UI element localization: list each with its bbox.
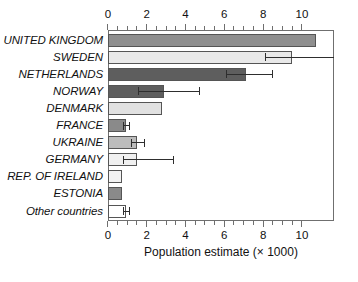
x-tick-label-bot-10: 10 xyxy=(289,229,315,241)
major-tick-bot xyxy=(224,221,225,227)
error-bar xyxy=(265,57,334,58)
bar-row: Other countries xyxy=(0,203,358,220)
error-bar-cap-low xyxy=(131,139,132,147)
minor-tick-bot xyxy=(117,221,118,225)
bar xyxy=(108,187,122,200)
bar-row: NETHERLANDS xyxy=(0,66,358,83)
minor-tick-top xyxy=(175,26,176,30)
x-tick-label-bot-8: 8 xyxy=(250,229,276,241)
major-tick-bot xyxy=(301,221,302,227)
error-bar xyxy=(124,159,174,160)
minor-tick-bot xyxy=(204,221,205,225)
minor-tick-bot xyxy=(127,221,128,225)
error-bar xyxy=(226,74,273,75)
error-bar-cap-high xyxy=(129,122,130,130)
major-tick-top xyxy=(146,24,147,30)
bar-row: GERMANY xyxy=(0,151,358,168)
minor-tick-top xyxy=(166,26,167,30)
error-bar-cap-high xyxy=(144,139,145,147)
minor-tick-top xyxy=(117,26,118,30)
bar xyxy=(108,34,316,47)
minor-tick-top xyxy=(195,26,196,30)
error-bar-cap-low xyxy=(226,70,227,78)
bar-row: UNITED KINGDOM xyxy=(0,32,358,49)
minor-tick-top xyxy=(156,26,157,30)
minor-tick-top xyxy=(136,26,137,30)
x-tick-label-top-2: 2 xyxy=(134,8,160,20)
bar xyxy=(108,102,162,115)
error-bar-cap-high xyxy=(129,207,130,215)
x-tick-label-bot-4: 4 xyxy=(173,229,199,241)
x-tick-label-bot-0: 0 xyxy=(95,229,121,241)
minor-tick-top xyxy=(204,26,205,30)
bar-row: FRANCE xyxy=(0,117,358,134)
bar xyxy=(108,170,122,183)
x-tick-label-top-10: 10 xyxy=(289,8,315,20)
minor-tick-bot xyxy=(272,221,273,225)
category-label: DENMARK xyxy=(0,100,103,117)
minor-tick-top xyxy=(214,26,215,30)
bar-row: NORWAY xyxy=(0,83,358,100)
bar-row: SWEDEN xyxy=(0,49,358,66)
minor-tick-top xyxy=(253,26,254,30)
minor-tick-top xyxy=(243,26,244,30)
error-bar-cap-low xyxy=(123,207,124,215)
error-bar-cap-high xyxy=(199,87,200,95)
major-tick-top xyxy=(263,24,264,30)
x-tick-label-top-0: 0 xyxy=(95,8,121,20)
major-tick-top xyxy=(224,24,225,30)
category-label: NETHERLANDS xyxy=(0,66,103,83)
minor-tick-bot xyxy=(175,221,176,225)
minor-tick-bot xyxy=(292,221,293,225)
minor-tick-top xyxy=(282,26,283,30)
minor-tick-bot xyxy=(156,221,157,225)
x-tick-label-bot-2: 2 xyxy=(134,229,160,241)
category-label: NORWAY xyxy=(0,83,103,100)
bottom-axis-line xyxy=(108,220,334,221)
major-tick-bot xyxy=(185,221,186,227)
minor-tick-bot xyxy=(233,221,234,225)
minor-tick-top xyxy=(272,26,273,30)
category-label: REP. OF IRELAND xyxy=(0,168,103,185)
error-bar-cap-high xyxy=(173,156,174,164)
category-label: ESTONIA xyxy=(0,185,103,202)
major-tick-bot xyxy=(146,221,147,227)
major-tick-bot xyxy=(107,221,108,227)
major-tick-bot xyxy=(263,221,264,227)
bar-row: DENMARK xyxy=(0,100,358,117)
minor-tick-top xyxy=(292,26,293,30)
minor-tick-top xyxy=(233,26,234,30)
error-bar-cap-low xyxy=(123,122,124,130)
minor-tick-bot xyxy=(195,221,196,225)
minor-tick-bot xyxy=(243,221,244,225)
x-tick-label-top-4: 4 xyxy=(173,8,199,20)
category-label: SWEDEN xyxy=(0,49,103,66)
bar-row: REP. OF IRELAND xyxy=(0,168,358,185)
minor-tick-bot xyxy=(166,221,167,225)
bar-row: UKRAINE xyxy=(0,134,358,151)
minor-tick-bot xyxy=(214,221,215,225)
minor-tick-bot xyxy=(282,221,283,225)
error-bar-cap-high xyxy=(272,70,273,78)
major-tick-top xyxy=(301,24,302,30)
bar-row: ESTONIA xyxy=(0,185,358,202)
category-label: UNITED KINGDOM xyxy=(0,32,103,49)
x-axis-title: Population estimate (× 1000) xyxy=(108,245,334,259)
error-bar xyxy=(131,142,145,143)
category-label: UKRAINE xyxy=(0,134,103,151)
error-bar xyxy=(139,91,199,92)
major-tick-top xyxy=(185,24,186,30)
x-tick-label-top-6: 6 xyxy=(211,8,237,20)
minor-tick-bot xyxy=(136,221,137,225)
horizontal-bar-chart: 00224466881010 UNITED KINGDOMSWEDENNETHE… xyxy=(0,0,358,282)
error-bar-cap-low xyxy=(265,53,266,61)
error-bar-cap-low xyxy=(138,87,139,95)
minor-tick-bot xyxy=(253,221,254,225)
error-bar-cap-low xyxy=(123,156,124,164)
x-tick-label-bot-6: 6 xyxy=(211,229,237,241)
major-tick-top xyxy=(107,24,108,30)
x-tick-label-top-8: 8 xyxy=(250,8,276,20)
category-label: GERMANY xyxy=(0,151,103,168)
minor-tick-top xyxy=(127,26,128,30)
category-label: FRANCE xyxy=(0,117,103,134)
